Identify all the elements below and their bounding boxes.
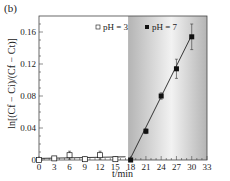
data-point-open-square (67, 153, 72, 158)
y-tick-label: 0.04 (20, 123, 36, 133)
x-tick-label: 9 (83, 162, 88, 172)
y-tick-label: 0 (32, 155, 37, 165)
data-point-open-square (113, 157, 118, 162)
legend-ph7: pH = 7 (152, 22, 178, 32)
data-point-filled-square (159, 94, 164, 99)
y-tick-label: 0.12 (20, 59, 36, 69)
x-tick-label: 24 (157, 162, 167, 172)
data-point-open-square (52, 156, 57, 161)
y-tick-label: 0.08 (20, 91, 36, 101)
plot-area: 0369121518212427303300.040.080.120.16pH … (0, 0, 230, 181)
y-axis-label: ln[(Cf − Ci)/(Cf − Ct)] (6, 29, 17, 139)
data-point-filled-square (189, 34, 194, 39)
data-point-filled-square (143, 129, 148, 134)
data-point-open-square (82, 157, 87, 162)
data-point-open-square (98, 153, 103, 158)
x-tick-label: 27 (172, 162, 182, 172)
x-tick-label: 0 (37, 162, 42, 172)
x-tick-label: 6 (67, 162, 72, 172)
chart: (b) 0369121518212427303300.040.080.120.1… (0, 0, 230, 181)
x-tick-label: 30 (187, 162, 197, 172)
legend-open-square-icon (96, 25, 100, 29)
x-tick-label: 12 (96, 162, 105, 172)
x-axis-label: t/min (112, 168, 133, 179)
legend-filled-square-icon (145, 25, 149, 29)
x-tick-label: 21 (141, 162, 150, 172)
data-point-open-square (37, 158, 42, 163)
x-tick-label: 3 (52, 162, 57, 172)
x-tick-label: 33 (203, 162, 213, 172)
data-point-filled-square (128, 158, 133, 163)
data-point-filled-square (174, 66, 179, 71)
y-tick-label: 0.16 (20, 27, 36, 37)
legend-ph3: pH = 3 (103, 22, 129, 32)
